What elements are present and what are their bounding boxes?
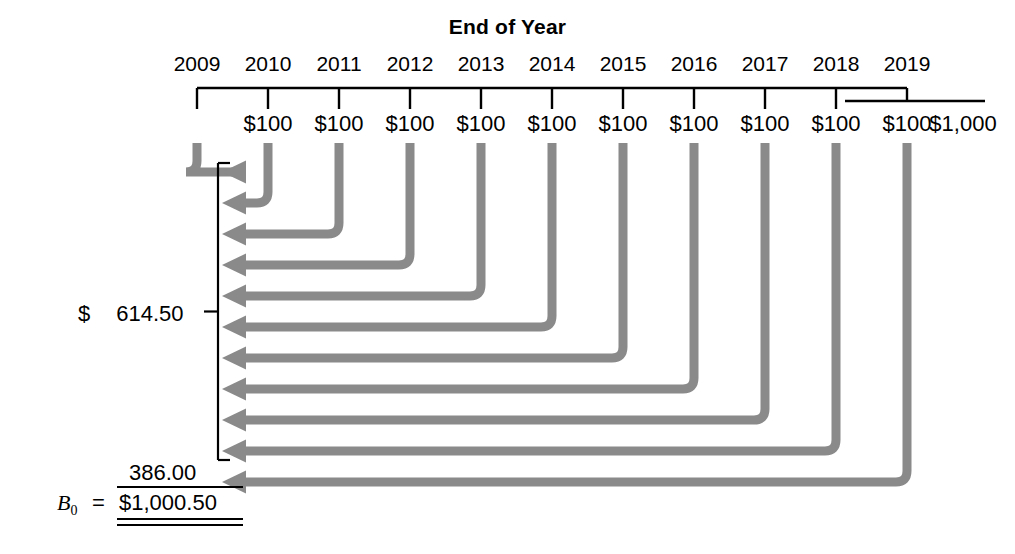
b0-subscript: 0 [70,503,77,518]
cash-flow-arrow-2 [222,143,339,246]
year-label-2012: 2012 [387,53,434,74]
cash-flow-arrows-group [186,143,907,494]
cash-flow-timeline-figure: End of Year 2009201020112012201320142015… [0,0,1015,554]
cash-flow-arrow-9 [222,143,836,463]
cash-flow-label-10: $1,000 [929,113,996,135]
cash-flow-arrow-3 [222,143,410,277]
b0-symbol-letter: B [57,490,70,515]
year-label-2019: 2019 [884,53,931,74]
arrow-shaft-8 [246,143,765,420]
cash-flow-label-5: $100 [599,113,648,135]
pv-principal-label: 386.00 [129,462,196,484]
pv-annuity-currency: $ [78,301,90,326]
year-label-2018: 2018 [813,53,860,74]
year-label-2010: 2010 [245,53,292,74]
cash-flow-label-8: $100 [812,113,861,135]
timeline-axis-group [197,88,985,109]
arrow-shaft-1 [246,143,268,203]
cash-flow-arrow-4 [222,143,481,308]
year-label-2009: 2009 [174,53,221,74]
cash-flow-label-2: $100 [386,113,435,135]
year-label-2016: 2016 [671,53,718,74]
cash-flow-label-3: $100 [457,113,506,135]
arrow-head-6 [222,347,246,370]
arrow-shaft-10 [246,143,907,482]
cash-flow-arrow-6 [222,143,623,370]
cash-flow-arrow-0 [186,143,246,184]
b0-equals-sign: = [92,492,105,514]
arrow-head-3 [222,254,246,277]
year-label-2011: 2011 [316,53,361,74]
b0-total-value: $1,000.50 [119,492,217,514]
arrow-head-4 [222,285,246,308]
b0-symbol: B0 [57,492,77,518]
arrow-head-1 [222,192,246,215]
arrow-shaft-2 [246,143,339,234]
cash-flow-label-7: $100 [741,113,790,135]
year-label-2015: 2015 [600,53,647,74]
year-label-2017: 2017 [742,53,789,74]
arrow-shaft-4 [246,143,481,296]
year-label-2013: 2013 [458,53,505,74]
year-label-2014: 2014 [529,53,576,74]
annuity-bracket-group [204,163,230,460]
cash-flow-arrow-10 [222,143,907,494]
cash-flow-label-6: $100 [670,113,719,135]
arrow-head-10 [222,471,246,494]
pv-annuity-value: 614.50 [116,301,183,326]
cash-flow-label-1: $100 [315,113,364,135]
cash-flow-label-0: $100 [244,113,293,135]
arrow-head-5 [222,316,246,339]
cash-flow-label-4: $100 [528,113,577,135]
arrow-head-2 [222,223,246,246]
pv-annuity-label: $614.50 [78,303,184,325]
cash-flow-label-9: $100 [883,113,932,135]
arrow-head-8 [222,409,246,432]
arrow-head-7 [222,378,246,401]
